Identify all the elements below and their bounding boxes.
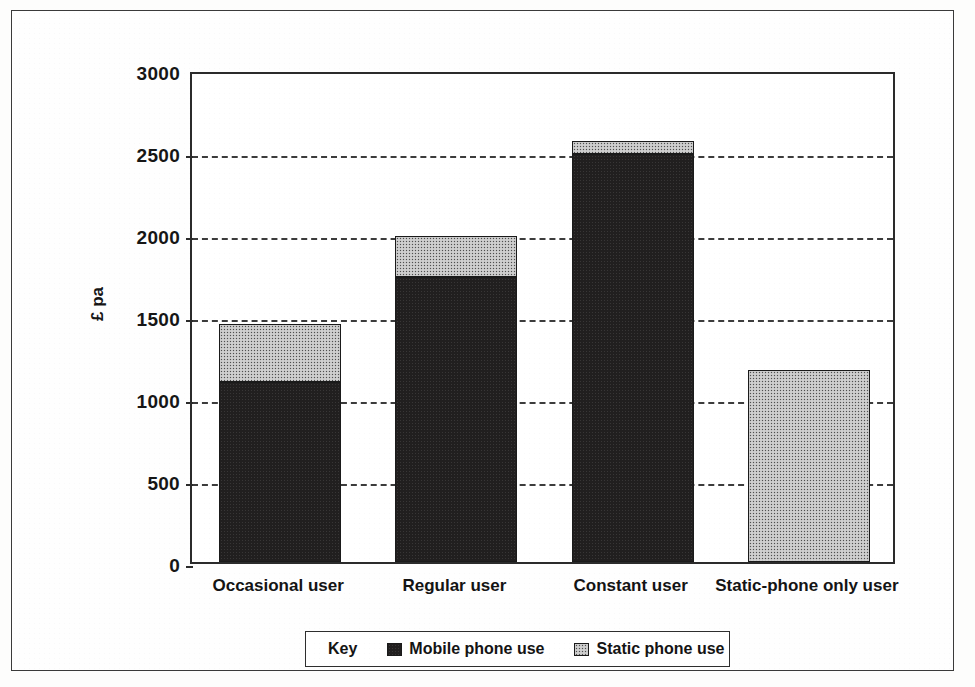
figure-canvas: £ pa 050010001500200025003000 Occasional… xyxy=(0,0,975,687)
bar-segment xyxy=(572,141,694,154)
x-axis-tick-label: Occasional user xyxy=(212,576,343,596)
x-axis-tick-label: Regular user xyxy=(402,576,506,596)
bar-segment xyxy=(748,370,870,562)
x-axis-tick-label: Static-phone only user xyxy=(715,576,898,596)
bar-stack xyxy=(395,70,517,562)
light-swatch-icon xyxy=(574,643,589,656)
y-axis-tick xyxy=(186,402,193,404)
legend-title: Key xyxy=(328,640,357,658)
bar-segment xyxy=(219,382,341,562)
y-axis-tick-label: 0 xyxy=(169,555,180,577)
bar-stack xyxy=(219,70,341,562)
y-axis-tick xyxy=(186,238,193,240)
legend-label: Mobile phone use xyxy=(409,640,544,658)
bar-segment xyxy=(572,154,694,562)
plot-area: 050010001500200025003000 xyxy=(190,72,895,564)
bar-segment xyxy=(219,324,341,381)
y-axis-tick-label: 3000 xyxy=(137,63,180,85)
y-axis-tick-label: 2000 xyxy=(137,227,180,249)
legend-entry: Static phone use xyxy=(574,640,724,658)
y-axis-tick xyxy=(186,566,193,568)
y-axis-tick xyxy=(186,320,193,322)
figure-border: £ pa 050010001500200025003000 Occasional… xyxy=(11,10,954,671)
y-axis-tick-label: 1000 xyxy=(137,391,180,413)
bar-stack xyxy=(572,70,694,562)
legend: Key Mobile phone useStatic phone use xyxy=(305,631,730,667)
y-axis-tick-label: 1500 xyxy=(137,309,180,331)
legend-label: Static phone use xyxy=(596,640,724,658)
bar-segment xyxy=(395,277,517,562)
legend-entry: Mobile phone use xyxy=(387,640,544,658)
y-axis-tick xyxy=(186,484,193,486)
y-axis-tick-label: 500 xyxy=(147,473,180,495)
y-axis-title: £ pa xyxy=(88,287,108,321)
legend-entries: Mobile phone useStatic phone use xyxy=(357,640,724,658)
bar-segment xyxy=(395,236,517,277)
x-axis-tick-label: Constant user xyxy=(573,576,687,596)
y-axis-tick-label: 2500 xyxy=(137,145,180,167)
bar-stack xyxy=(748,70,870,562)
y-axis-tick xyxy=(186,156,193,158)
dark-swatch-icon xyxy=(387,643,402,656)
